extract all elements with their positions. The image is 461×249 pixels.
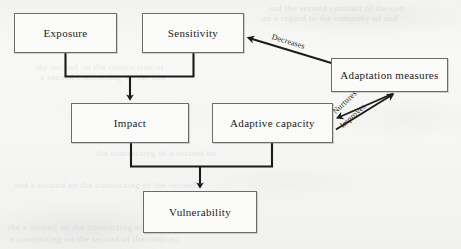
node-label-sensitivity: Sensitivity xyxy=(168,27,218,39)
node-label-vulnerability: Vulnerability xyxy=(169,206,231,218)
node-label-impact: Impact xyxy=(114,117,146,129)
node-label-adaptation-measures: Adaptation measures xyxy=(340,69,438,81)
node-label-adaptive-capacity: Adaptive capacity xyxy=(230,117,315,129)
node-sensitivity[interactable]: Sensitivity xyxy=(142,13,244,53)
connector-impact-capacity-to-vulnerability xyxy=(131,143,272,186)
node-adaptation-measures[interactable]: Adaptation measures xyxy=(331,58,448,92)
connector-exposure-sensitivity-to-impact xyxy=(66,53,194,98)
diagram-figure: and the second contract of the conan a r… xyxy=(0,0,461,249)
node-vulnerability[interactable]: Vulnerability xyxy=(143,191,257,233)
node-impact[interactable]: Impact xyxy=(71,103,189,143)
node-label-exposure: Exposure xyxy=(44,27,88,39)
node-adaptive-capacity[interactable]: Adaptive capacity xyxy=(212,103,333,143)
node-exposure[interactable]: Exposure xyxy=(14,13,117,53)
